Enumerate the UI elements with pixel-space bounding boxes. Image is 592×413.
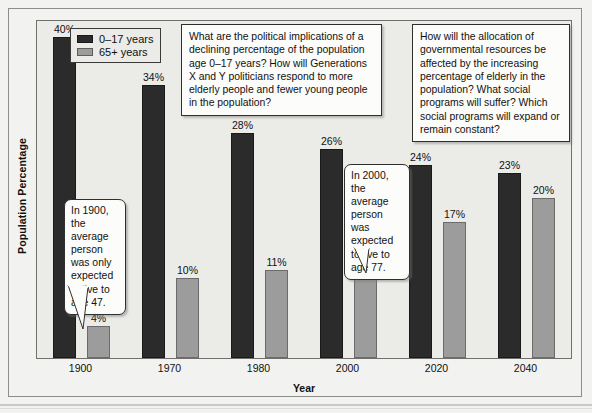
bar-1980-young (231, 133, 254, 358)
bar-2020-young (409, 165, 432, 358)
bar-2000-young (320, 149, 343, 358)
callout-question-right: How will the allocation of governmental … (412, 24, 570, 142)
bar-2020-old (443, 222, 466, 358)
legend: 0–17 years 65+ years (70, 28, 161, 63)
x-axis-title: Year (36, 382, 572, 394)
callout-bubble-2000-tail-icon (352, 247, 386, 275)
x-tick-1970: 1970 (125, 362, 214, 374)
bar-value-label-1970-young: 34% (133, 71, 174, 83)
chart-figure: Population Percentage Year 40%4%34%10%28… (0, 0, 592, 413)
legend-item-old: 65+ years (77, 45, 153, 58)
bar-value-label-1980-young: 28% (222, 119, 263, 131)
callout-bubble-1900-tail-icon (64, 285, 104, 331)
bar-value-label-2000-young: 26% (311, 135, 352, 147)
legend-swatch-young-icon (77, 35, 93, 43)
bar-value-label-1970-old: 10% (167, 264, 208, 276)
bar-1970-old (176, 278, 199, 358)
legend-label-young: 0–17 years (99, 33, 153, 45)
bar-2040-young (498, 173, 521, 358)
bar-2040-old (532, 198, 555, 358)
bar-value-label-1980-old: 11% (256, 256, 297, 268)
page-bottom-rule-secondary (0, 408, 592, 409)
bar-value-label-2020-old: 17% (434, 208, 475, 220)
legend-swatch-old-icon (77, 48, 93, 56)
bar-1980-old (265, 270, 288, 358)
legend-label-old: 65+ years (99, 46, 148, 58)
x-tick-2000: 2000 (303, 362, 392, 374)
x-tick-2040: 2040 (481, 362, 570, 374)
x-tick-2020: 2020 (392, 362, 481, 374)
callout-question-left: What are the political implications of a… (181, 24, 382, 116)
bar-value-label-2040-old: 20% (523, 184, 564, 196)
bar-1970-young (142, 85, 165, 358)
y-axis-title: Population Percentage (16, 96, 28, 296)
x-tick-1900: 1900 (36, 362, 125, 374)
bar-value-label-2020-young: 24% (400, 151, 441, 163)
legend-item-young: 0–17 years (77, 32, 153, 45)
page-bottom-rule (0, 404, 592, 406)
bar-value-label-2040-young: 23% (489, 159, 530, 171)
x-tick-1980: 1980 (214, 362, 303, 374)
